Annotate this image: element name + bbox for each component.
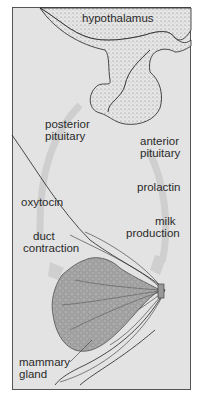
label-anterior-pituitary-2: pituitary [140,147,180,159]
label-mammary-gland-1: mammary [19,356,70,368]
label-duct-contraction-2: contraction [23,242,79,254]
label-posterior-pituitary-1: posterior [45,118,90,130]
label-anterior-pituitary-1: anterior [140,135,179,147]
label-milk-production-2: production [126,227,180,239]
label-oxytocin: oxytocin [21,196,63,208]
hypothalamus-shape [40,8,191,124]
label-mammary-gland-2: gland [19,368,47,380]
label-hypothalamus: hypothalamus [82,12,154,24]
label-milk-production-1: milk [155,215,175,227]
milk-arrow-head [150,255,166,275]
label-duct-contraction-1: duct [33,230,55,242]
label-prolactin: prolactin [137,181,180,193]
label-posterior-pituitary-2: pituitary [45,130,85,142]
anterior-pathway-arrow [148,150,166,262]
